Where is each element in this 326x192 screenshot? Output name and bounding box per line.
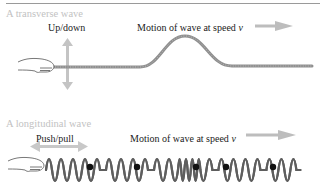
hand-icon — [18, 58, 54, 72]
hand-icon — [8, 157, 44, 171]
up-down-arrow-icon — [62, 38, 73, 90]
spring-coil-icon — [46, 159, 300, 181]
push-pull-arrow-icon — [30, 141, 88, 152]
wave-diagram — [0, 0, 326, 192]
rope-wave-icon — [50, 36, 312, 67]
longitudinal-speed-arrow-icon — [246, 130, 296, 140]
transverse-speed-arrow-icon — [255, 21, 293, 31]
